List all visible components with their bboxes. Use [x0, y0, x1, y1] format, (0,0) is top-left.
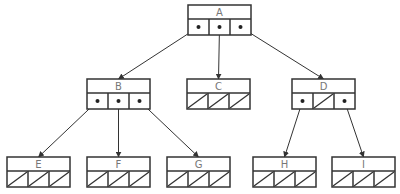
node-label: E	[35, 159, 41, 170]
pointer-dot	[218, 25, 222, 29]
pointer-dot	[301, 99, 305, 103]
node-label: H	[281, 159, 289, 170]
pointer-dot	[197, 25, 201, 29]
pointer-dot	[343, 99, 347, 103]
pointer-dot	[138, 99, 142, 103]
tree-node-d: D	[292, 79, 355, 109]
nodes-layer: ABCDEFGHI	[7, 5, 395, 187]
node-label: B	[115, 81, 122, 92]
tree-node-b: B	[87, 79, 150, 109]
node-label: A	[216, 7, 223, 18]
edge-a-b	[119, 27, 199, 79]
node-label: C	[215, 81, 222, 92]
tree-node-h: H	[253, 157, 316, 187]
tree-node-a: A	[188, 5, 251, 35]
tree-node-c: C	[187, 79, 250, 109]
node-label: G	[195, 159, 203, 170]
tree-node-e: E	[7, 157, 70, 187]
tree-diagram: ABCDEFGHI	[0, 0, 400, 194]
edge-a-d	[241, 27, 324, 79]
pointer-dot	[239, 25, 243, 29]
node-label: F	[116, 159, 122, 170]
pointer-dot	[117, 99, 121, 103]
tree-node-g: G	[167, 157, 230, 187]
node-label: D	[320, 81, 328, 92]
tree-node-i: I	[332, 157, 395, 187]
pointer-dot	[96, 99, 100, 103]
tree-node-f: F	[87, 157, 150, 187]
node-label: I	[362, 159, 365, 170]
